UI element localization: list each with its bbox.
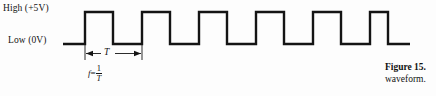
figure-caption-text: waveform.	[385, 74, 436, 86]
waveform-trace	[63, 12, 410, 44]
figure-container: High (+5V) Low (0V) T f=1T Figure 15. wa…	[0, 0, 436, 96]
formula-denominator: T	[96, 74, 103, 83]
period-arrowhead-left	[86, 51, 93, 56]
period-arrowhead-right	[134, 51, 141, 56]
figure-caption-title: Figure 15.	[385, 62, 436, 74]
period-symbol-label: T	[104, 47, 109, 57]
frequency-formula: f=1T	[88, 64, 102, 84]
figure-caption: Figure 15. waveform.	[385, 62, 436, 86]
square-wave-waveform	[0, 0, 436, 96]
formula-fraction: 1T	[96, 64, 103, 84]
formula-numerator: 1	[96, 64, 103, 73]
